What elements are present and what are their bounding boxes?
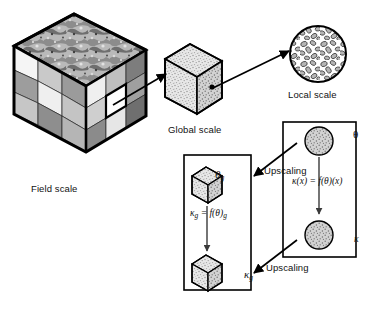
arrow-global-to-local [213,51,289,88]
symbol-theta-g: θg [215,168,224,182]
label-field-scale: Field scale [31,183,78,194]
global-scale-cube [165,44,222,114]
label-global-scale: Global scale [168,124,221,135]
equation-global-rhs-sub: g [223,211,227,220]
symbol-kappa-g: κg [244,268,253,282]
symbol-theta-g-sub: g [220,173,224,182]
kappa-circle [305,221,333,249]
local-relationship-box [283,122,356,257]
label-upscaling-top: Upscaling [264,165,307,176]
local-scale-circle [290,26,346,82]
equation-global-eq: = [198,208,209,218]
equation-local-scale: κ(x) = f(θ)(x) [292,176,342,186]
equation-global-scale: κg = f(θ)g [190,208,227,220]
field-scale-cube [14,14,146,152]
label-local-scale: Local scale [288,89,337,100]
kappa-g-cube [192,255,222,291]
equation-global-rhs: f(θ) [209,208,223,218]
theta-circle [305,127,333,155]
upscaling-diagram [0,0,385,316]
symbol-kappa: κ [354,233,359,244]
label-upscaling-bottom: Upscaling [266,262,309,273]
symbol-theta: θ [353,128,358,140]
symbol-kappa-g-sub: g [249,273,253,282]
